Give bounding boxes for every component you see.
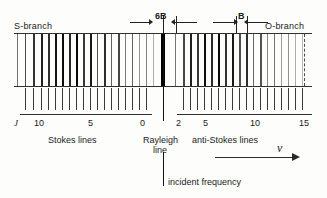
spectral-line [125,34,126,86]
axis-tick [48,88,49,110]
spectral-line [175,34,176,86]
axis-tick [288,88,289,110]
spectral-line [48,34,50,86]
dim-b-tick-end [247,16,248,34]
axis-tick [55,88,56,110]
axis-tick [76,88,77,110]
axis-tick [204,88,205,110]
anti-stokes-axis-line [177,114,312,115]
dimension-label-6b: 6B [155,12,167,21]
axis-tick [132,88,133,110]
spectral-line [225,34,227,86]
spectral-line [204,34,206,86]
tick-label-right-2: 2 [176,119,181,128]
dim-b-left-rule [213,22,235,23]
axis-tick [225,88,226,110]
spectral-line [76,34,78,86]
axis-tick [197,88,198,110]
spectral-line [69,34,71,86]
spectral-line [211,34,213,86]
axis-tick [33,88,34,110]
axis-tick [83,88,84,110]
rayleigh-caption-line1: Rayleigh [143,136,178,145]
spectral-line [139,34,140,86]
spectral-line [288,34,289,86]
axis-tick [104,88,105,110]
raman-spectrum-figure: S-branch O-branch 6B B J 10 5 0 2 5 [0,0,327,198]
tick-label-right-15: 15 [299,119,309,128]
spectral-line [267,34,268,86]
spectral-line [25,34,26,86]
axis-tick [260,88,261,110]
frequency-axis-arrow-shaft [215,157,293,158]
tick-label-left-5: 5 [88,119,93,128]
axis-tick [211,88,212,110]
spectral-line [281,34,282,86]
spectral-line [17,34,18,86]
stokes-axis-line [20,114,152,115]
dim-b-right-rule [248,22,268,23]
rayleigh-caption-line2: line [153,146,167,155]
spectral-line [104,34,106,86]
tick-label-left-0: 0 [140,119,145,128]
axis-tick-marks [14,88,312,114]
frequency-symbol-nu: ν [277,142,282,154]
axis-tick [239,88,240,110]
spectral-line [218,34,220,86]
axis-symbol-j: J [14,119,18,128]
incident-frequency-caption: incident frequency [168,178,241,187]
axis-tick [41,88,42,110]
dim-6b-left-arrowhead [149,19,153,25]
spectral-line [97,34,98,86]
incident-frequency-leader-line [163,152,164,186]
axis-tick [295,88,296,110]
axis-tick [302,88,303,110]
dim-6b-right-rule [175,22,197,23]
spectral-line [153,34,154,86]
axis-tick [69,88,70,110]
spectral-line [55,34,57,86]
axis-tick [281,88,282,110]
axis-tick [274,88,275,110]
axis-tick [218,88,219,110]
o-branch-label: O-branch [265,22,304,31]
axis-tick [25,88,26,110]
spectral-line [260,34,262,86]
axis-tick [139,88,140,110]
s-branch-label: S-branch [14,22,52,31]
axis-tick [253,88,254,110]
spectral-line [118,34,120,86]
dim-b-tick-start [236,16,237,34]
frequency-axis-arrow-head [292,153,300,161]
spectral-line [246,34,248,86]
axis-tick [232,88,233,110]
axis-tick [97,88,98,110]
axis-tick [118,88,119,110]
spectral-line [146,34,147,86]
dim-6b-right-arrowhead [171,19,175,25]
dim-6b-tick-end [176,16,177,34]
axis-tick [267,88,268,110]
dim-6b-tick-start [163,16,164,34]
spectral-line [274,34,275,86]
axis-tick [190,88,191,110]
spectral-line [111,34,112,86]
spectrum-right-edge-dashed [304,34,305,86]
axis-tick [246,88,247,110]
axis-tick [62,88,63,110]
spectral-line [62,34,64,86]
spectral-line [190,34,192,86]
spectral-line [232,34,234,86]
spectral-line [90,34,92,86]
spectral-line [239,34,241,86]
tick-label-right-5: 5 [203,119,208,128]
axis-tick [90,88,91,110]
spectral-line [183,34,185,86]
axis-tick [146,88,147,110]
spectral-line [253,34,254,86]
spectral-line [302,34,303,86]
spectral-line [295,34,296,86]
tick-label-left-10: 10 [34,119,44,128]
axis-tick [183,88,184,110]
spectral-line [33,34,35,86]
